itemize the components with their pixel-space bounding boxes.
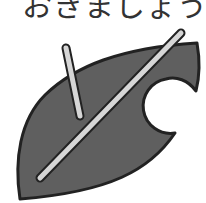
bitten-leaf-icon [0, 0, 206, 203]
